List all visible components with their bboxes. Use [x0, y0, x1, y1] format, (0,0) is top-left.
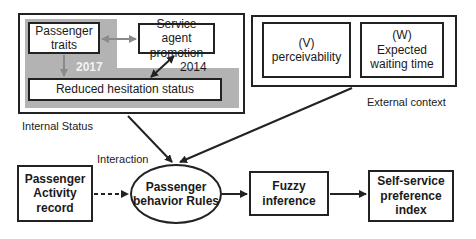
external-to-rules-arrow [180, 88, 352, 162]
promotion-hesitation-arrow [151, 56, 174, 77]
connector-layer [0, 0, 476, 239]
internal-to-rules-arrow [128, 116, 172, 162]
